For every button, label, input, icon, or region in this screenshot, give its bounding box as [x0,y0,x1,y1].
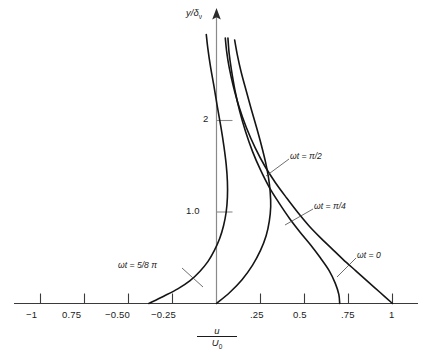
curve-series-2 [217,40,271,304]
curve-label-5-8-pi: ωt = 5/8 π [118,261,157,270]
x-tick-label-minus-1: −1 [26,310,37,320]
x-tick-label-1: 1 [389,310,394,320]
curve-label-pi-half: ωt = π/2 [290,152,322,161]
x-axis-title-denominator: U0 [197,337,237,351]
y-tick-label-1: 1.0 [186,206,200,216]
x-axis-title: u U0 [197,326,237,351]
curve-series-1 [228,38,340,303]
y-axis-title: y/δν [186,8,202,20]
x-tick-label-025: .25 [250,310,264,320]
figure-container: y/δν u U0 −1 0.75 −0.50 −0.25 .25 0.5 .7… [0,0,426,359]
y-tick-label-2: 2 [203,114,208,124]
curve-series-0 [225,38,392,303]
curve-label-pi-quarter: ωt = π/4 [314,202,346,211]
x-tick-label-minus-075: 0.75 [62,310,81,320]
x-axis-title-numerator: u [197,326,237,337]
velocity-profile-chart [0,0,426,359]
x-tick-label-minus-050: −0.50 [105,310,130,320]
leader-line-pi-half [266,159,289,176]
curve-series-3 [149,34,228,303]
x-tick-label-minus-025: −0.25 [151,310,176,320]
x-tick-label-075: .75 [341,310,355,320]
x-tick-label-05: 0.5 [293,310,307,320]
y-axis-ticks [217,121,233,213]
curve-label-zero: ωt = 0 [357,251,381,260]
data-curves [149,34,393,303]
